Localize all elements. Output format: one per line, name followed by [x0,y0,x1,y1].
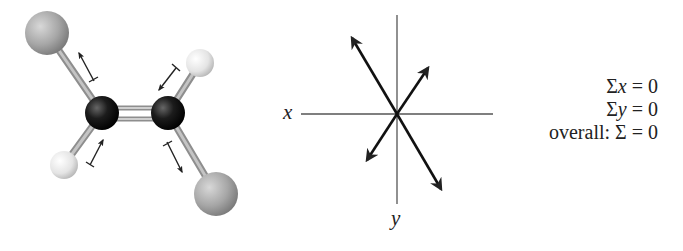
x-axis-label: x [283,100,292,125]
equation-sum-y: Σy = 0 [606,98,658,121]
sum-y-prefix: Σ [606,98,618,120]
overall-rest: = 0 [627,121,658,143]
vector-lower-right [397,114,441,189]
equation-sum-x: Σx = 0 [606,75,658,98]
vector-upper-left [352,38,397,114]
vector-diagram [301,15,493,204]
vector-upper-right [397,68,428,114]
hydrogen-atom-top-right [186,49,214,77]
halogen-atom-bottom-right [194,172,238,216]
overall-prefix: overall: Σ [549,121,627,143]
y-axis-label: y [391,206,400,231]
sum-x-var: x [618,75,627,97]
carbon-atom-left [85,96,119,130]
equation-overall: overall: Σ = 0 [549,121,658,144]
carbon-atom-right [151,96,185,130]
molecule-model [25,11,238,216]
sum-x-rest: = 0 [627,75,658,97]
sum-x-prefix: Σ [606,75,618,97]
halogen-atom-top-left [25,11,69,55]
hydrogen-atom-bottom-left [50,151,78,179]
vector-lower-left [367,114,397,160]
sum-y-var: y [618,98,627,120]
sum-y-rest: = 0 [627,98,658,120]
